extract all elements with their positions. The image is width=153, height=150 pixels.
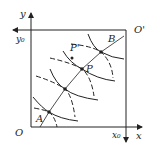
point-mid	[63, 87, 67, 91]
label-b: B	[108, 34, 115, 44]
indifference-curve-b2	[36, 76, 75, 117]
label-y: y	[20, 9, 26, 19]
label-a: A	[36, 114, 43, 124]
edgeworth-box-diagram: y O' y₀ B P' P A O x₀ x	[0, 0, 153, 150]
point-p-prime	[71, 57, 74, 60]
label-p: P	[86, 64, 93, 74]
contract-curve	[40, 36, 124, 127]
label-x0: x₀	[112, 131, 121, 140]
point-p	[80, 67, 84, 71]
point-a	[47, 110, 51, 114]
label-o: O	[15, 128, 23, 138]
indifference-curve-a4	[88, 34, 124, 59]
label-x: x	[136, 131, 142, 141]
label-p-prime: P'	[70, 43, 79, 53]
label-o-prime: O'	[134, 25, 145, 35]
point-b	[99, 50, 103, 54]
label-y0: y₀	[16, 35, 25, 44]
